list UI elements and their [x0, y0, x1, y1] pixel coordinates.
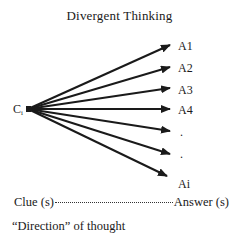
- origin-label: Ci: [13, 103, 23, 119]
- arrow-2: [28, 67, 170, 109]
- clue-answer-axis: Clue (s) Answer (s): [14, 195, 229, 210]
- dotted-connector: [55, 202, 173, 203]
- answer-node-label: A1: [178, 40, 193, 52]
- answer-node-label: A2: [178, 62, 193, 74]
- answer-node-label: .: [180, 126, 183, 138]
- answer-node-label: .: [180, 148, 183, 160]
- arrow-6: [28, 109, 170, 154]
- answer-node-label: A3: [178, 84, 193, 96]
- answer-label: Answer (s): [174, 195, 229, 210]
- direction-caption: “Direction” of thought: [12, 219, 125, 234]
- clue-label: Clue (s): [14, 195, 54, 210]
- origin-node: [26, 106, 31, 112]
- answer-node-label: Ai: [178, 178, 190, 190]
- answer-node-label: A4: [178, 104, 193, 116]
